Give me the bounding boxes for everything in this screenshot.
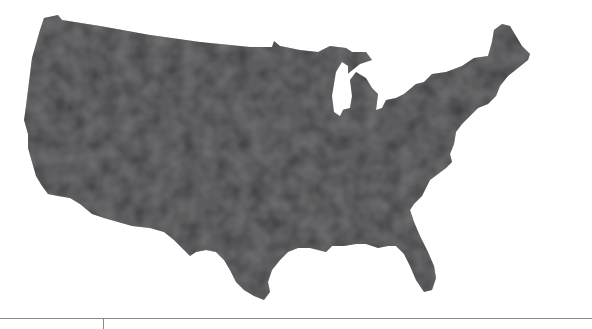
lake-erie-huron xyxy=(372,64,400,92)
footer-column-separator xyxy=(103,318,104,329)
footer-divider xyxy=(0,318,592,319)
us-map xyxy=(0,0,592,329)
contiguous-us-landmass xyxy=(24,15,530,300)
